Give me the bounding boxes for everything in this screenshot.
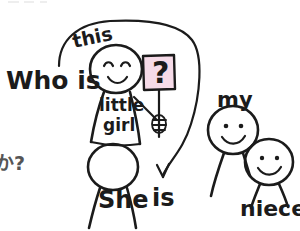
text-little: little [99,95,144,115]
text-who-is: Who is [6,66,101,95]
text-my: my [217,88,253,112]
text-is: is [152,184,175,212]
text-sign-question-mark: ? [152,55,169,90]
figure-my [208,106,258,196]
sketch-canvas: Who is this little girl ? She is my niec… [0,0,300,231]
text-niece: niece [240,196,300,221]
text-girl: girl [103,115,135,135]
top-cutoff-marks [8,1,47,3]
text-japanese-cutoff: か? [0,152,25,174]
text-she: She [98,186,149,214]
sketch-drawing: Who is this little girl ? She is my niec… [0,0,300,231]
